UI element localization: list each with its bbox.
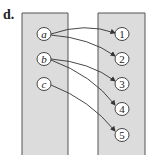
svg-text:b: b (41, 53, 47, 65)
node-5: 5 (115, 129, 129, 142)
svg-text:3: 3 (119, 78, 125, 90)
node-2: 2 (115, 53, 129, 66)
svg-text:a: a (41, 28, 47, 40)
node-3: 3 (115, 78, 129, 91)
node-1: 1 (115, 28, 129, 41)
svg-text:5: 5 (119, 129, 125, 141)
svg-text:2: 2 (119, 53, 125, 65)
node-c: c (37, 78, 51, 91)
svg-text:1: 1 (119, 28, 125, 40)
svg-text:c: c (42, 78, 47, 90)
svg-text:4: 4 (119, 103, 125, 115)
node-a: a (37, 28, 51, 41)
node-4: 4 (115, 103, 129, 116)
mapping-diagram: a b c 1 2 3 4 5 (0, 0, 147, 155)
node-b: b (37, 53, 51, 66)
